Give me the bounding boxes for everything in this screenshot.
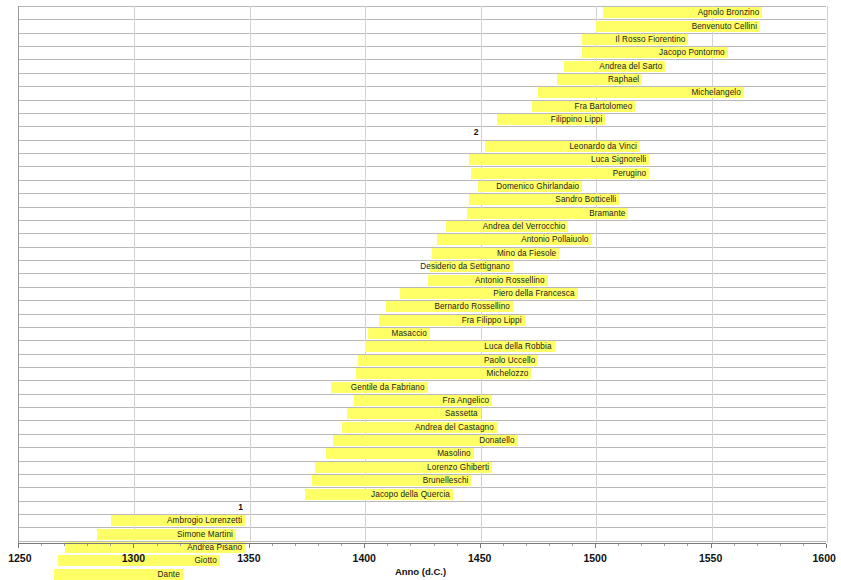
gridline-horizontal (19, 126, 826, 127)
axis-tick-label: 1400 (353, 552, 376, 564)
axis-tick-minor (526, 544, 527, 546)
axis-tick-minor (203, 544, 204, 546)
timeline-bar-label: Luca Signorelli (19, 154, 646, 165)
axis-tick-minor (664, 544, 665, 546)
timeline-bar-label: Raphael (19, 74, 639, 85)
timeline-bar-label: Michelangelo (19, 87, 741, 98)
timeline-bar-label: Donatello (19, 435, 515, 446)
timeline-bar-label: Leonardo da Vinci (19, 141, 637, 152)
axis-tick-minor (572, 544, 573, 546)
axis-tick-minor (734, 544, 735, 546)
axis-tick-minor (41, 544, 42, 546)
axis-tick-label: 1450 (468, 552, 491, 564)
timeline-bar-label: Sandro Botticelli (19, 194, 616, 205)
axis-tick-major (480, 544, 481, 548)
timeline-bar-label: Luca della Robbia (19, 341, 552, 352)
timeline-bar-label: Fra Bartolomeo (19, 101, 632, 112)
timeline-bar-label: Agnolo Bronzino (19, 7, 759, 18)
axis-tick-minor (87, 544, 88, 546)
axis-tick-minor (341, 544, 342, 546)
x-axis (18, 543, 826, 544)
axis-tick-minor (410, 544, 411, 546)
timeline-bar-label: Giotto (19, 555, 217, 566)
axis-tick-minor (757, 544, 758, 546)
timeline-bar-label: Brunelleschi (19, 475, 468, 486)
plot-area: Agnolo BronzinoBenvenuto CelliniIl Rosso… (18, 6, 826, 543)
axis-tick-minor (549, 544, 550, 546)
timeline-bar-label: Masaccio (19, 328, 427, 339)
timeline-bar-label: Antonio Rossellino (19, 275, 545, 286)
timeline-bar-label: Andrea del Castagno (19, 422, 494, 433)
timeline-bar-label: Bernardo Rossellino (19, 301, 510, 312)
axis-tick-label: 1300 (122, 552, 145, 564)
axis-tick-major (711, 544, 712, 548)
timeline-chart: Agnolo BronzinoBenvenuto CelliniIl Rosso… (0, 0, 841, 580)
timeline-bar-label: Mino da Fiesole (19, 248, 556, 259)
axis-tick-minor (503, 544, 504, 546)
timeline-bar-label: Simone Martini (19, 529, 233, 540)
axis-tick-minor (780, 544, 781, 546)
axis-tick-major (826, 544, 827, 548)
axis-tick-major (364, 544, 365, 548)
axis-tick-minor (641, 544, 642, 546)
timeline-bar-label: Michelozzo (19, 368, 529, 379)
timeline-bar-label: Antonio Pollaiuolo (19, 234, 589, 245)
timeline-bar-label: Bramante (19, 208, 625, 219)
axis-tick-minor (687, 544, 688, 546)
gridline-horizontal (19, 501, 826, 502)
timeline-bar-label: Paolo Uccello (19, 355, 535, 366)
axis-tick-minor (272, 544, 273, 546)
timeline-bar-label: Lorenzo Ghiberti (19, 462, 489, 473)
axis-tick-minor (110, 544, 111, 546)
timeline-bar-label: Benvenuto Cellini (19, 21, 757, 32)
timeline-bar-label: Desiderio da Settignano (19, 261, 510, 272)
timeline-bar-label: Andrea del Verrocchio (19, 221, 565, 232)
axis-tick-label: 1250 (8, 552, 31, 564)
axis-tick-minor (180, 544, 181, 546)
axis-tick-major (18, 544, 19, 548)
timeline-bar-label: Andrea del Sarto (19, 61, 662, 72)
timeline-bar-label: Perugino (19, 168, 646, 179)
x-axis-title: Anno (d.C.) (0, 566, 841, 577)
timeline-bar-label: Filippino Lippi (19, 114, 602, 125)
timeline-bar-label: Sassetta (19, 408, 478, 419)
axis-tick-minor (387, 544, 388, 546)
axis-tick-minor (157, 544, 158, 546)
timeline-bar-label: Piero della Francesca (19, 288, 575, 299)
timeline-bar-label: Gentile da Fabriano (19, 382, 425, 393)
timeline-bar-label: Masolino (19, 448, 471, 459)
timeline-bar-label: Domenico Ghirlandaio (19, 181, 579, 192)
axis-tick-label: 1500 (583, 552, 606, 564)
axis-tick-minor (803, 544, 804, 546)
event-marker: 2 (474, 127, 479, 137)
axis-tick-major (249, 544, 250, 548)
timeline-bar-label: Jacopo Pontormo (19, 47, 725, 58)
event-marker: 1 (238, 502, 243, 512)
axis-tick-label: 1600 (812, 552, 835, 564)
timeline-bar-label: Fra Angelico (19, 395, 489, 406)
axis-tick-label: 1550 (699, 552, 722, 564)
axis-tick-minor (226, 544, 227, 546)
gridline-vertical (827, 6, 828, 543)
axis-tick-label: 1350 (237, 552, 260, 564)
timeline-bar-label: Jacopo della Quercia (19, 489, 450, 500)
axis-tick-minor (618, 544, 619, 546)
timeline-bar-label: Il Rosso Fiorentino (19, 34, 685, 45)
axis-tick-minor (434, 544, 435, 546)
axis-tick-minor (295, 544, 296, 546)
axis-tick-minor (318, 544, 319, 546)
timeline-bar-label: Ambrogio Lorenzetti (19, 515, 242, 526)
timeline-bar-label: Fra Filippo Lippi (19, 315, 522, 326)
axis-tick-major (595, 544, 596, 548)
axis-tick-minor (64, 544, 65, 546)
axis-tick-minor (457, 544, 458, 546)
axis-tick-major (133, 544, 134, 548)
